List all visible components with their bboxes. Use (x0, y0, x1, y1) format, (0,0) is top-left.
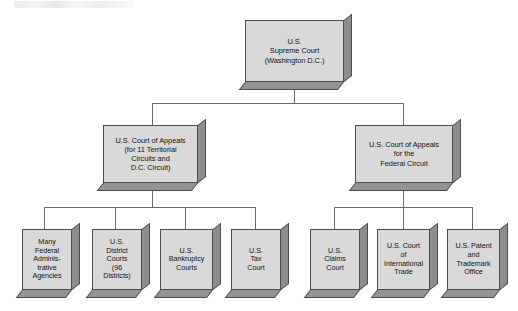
node-bottom-shadow (349, 183, 453, 191)
node-bottom-shadow (16, 290, 72, 298)
node-side-shadow (198, 119, 206, 183)
node-label-patent-trademark: U.S. Patent and Trademark Office (453, 242, 493, 276)
node-label-district-courts: U.S. District Courts (96 Districts) (101, 238, 132, 281)
node-bottom-shadow (371, 290, 430, 298)
node-face: U.S. Tax Court (231, 229, 281, 290)
node-claims-court[interactable]: U.S. Claims Court (310, 229, 360, 290)
court-system-diagram: U.S. Supreme Court (Washington D.C.) U.S… (0, 0, 518, 311)
node-bottom-shadow (97, 183, 198, 191)
node-side-shadow (453, 119, 461, 183)
connector-to-federal-agencies (44, 207, 45, 229)
node-label-appeals-federal: U.S. Court of Appeals for the Federal Ci… (367, 140, 441, 168)
node-face: U.S. Supreme Court (Washington D.C.) (245, 20, 344, 82)
node-side-shadow (360, 223, 368, 290)
node-label-international-trade: U.S. Court of International Trade (382, 242, 425, 276)
node-side-shadow (430, 223, 438, 290)
connector-to-tax-court (255, 207, 256, 229)
node-label-appeals-regional: U.S. Court of Appeals (for 11 Territoria… (113, 136, 187, 173)
connector-bus-level2 (152, 103, 404, 104)
node-bottom-shadow (239, 82, 344, 90)
node-bottom-shadow (154, 290, 213, 298)
node-face: U.S. District Courts (96 Districts) (92, 229, 142, 290)
node-side-shadow (142, 223, 150, 290)
node-patent-trademark[interactable]: U.S. Patent and Trademark Office (447, 229, 500, 290)
node-label-claims-court: U.S. Claims Court (322, 247, 348, 273)
node-face: U.S. Claims Court (310, 229, 360, 290)
node-side-shadow (281, 223, 289, 290)
connector-bus-to-appeals-regional (152, 103, 153, 126)
connector-to-patent-trademark (472, 207, 473, 229)
node-bottom-shadow (304, 290, 360, 298)
node-side-shadow (72, 223, 80, 290)
node-face: U.S. Bankruptcy Courts (160, 229, 213, 290)
node-bottom-shadow (86, 290, 142, 298)
connector-to-international-trade (403, 207, 404, 229)
node-label-supreme-court: U.S. Supreme Court (Washington D.C.) (263, 37, 327, 65)
node-face: U.S. Patent and Trademark Office (447, 229, 500, 290)
node-tax-court[interactable]: U.S. Tax Court (231, 229, 281, 290)
node-label-tax-court: U.S. Tax Court (245, 247, 266, 273)
connector-bus-to-appeals-federal (403, 103, 404, 126)
connector-to-bankruptcy-courts (185, 207, 186, 229)
node-federal-agencies[interactable]: Many Federal Adminis- trative Agencies (22, 229, 72, 290)
node-face: U.S. Court of International Trade (377, 229, 430, 290)
connector-to-claims-court (334, 207, 335, 229)
node-international-trade[interactable]: U.S. Court of International Trade (377, 229, 430, 290)
node-face: Many Federal Adminis- trative Agencies (22, 229, 72, 290)
node-district-courts[interactable]: U.S. District Courts (96 Districts) (92, 229, 142, 290)
node-face: U.S. Court of Appeals (for 11 Territoria… (103, 125, 198, 183)
scan-artifact (14, 1, 134, 8)
node-supreme-court[interactable]: U.S. Supreme Court (Washington D.C.) (245, 20, 344, 82)
node-side-shadow (500, 223, 508, 290)
node-appeals-regional[interactable]: U.S. Court of Appeals (for 11 Territoria… (103, 125, 198, 183)
node-label-bankruptcy-courts: U.S. Bankruptcy Courts (167, 247, 206, 273)
node-appeals-federal[interactable]: U.S. Court of Appeals for the Federal Ci… (355, 125, 453, 183)
node-face: U.S. Court of Appeals for the Federal Ci… (355, 125, 453, 183)
node-label-federal-agencies: Many Federal Adminis- trative Agencies (30, 238, 63, 281)
node-bottom-shadow (225, 290, 281, 298)
connector-bus-left-branch (44, 207, 256, 208)
connector-to-district-courts (115, 207, 116, 229)
node-bottom-shadow (441, 290, 500, 298)
node-side-shadow (344, 14, 352, 82)
node-bankruptcy-courts[interactable]: U.S. Bankruptcy Courts (160, 229, 213, 290)
node-side-shadow (213, 223, 221, 290)
